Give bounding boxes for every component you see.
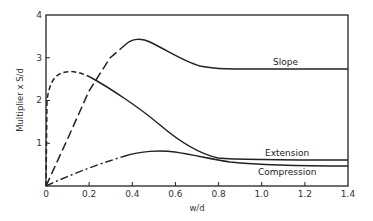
- extension-curve-dashed: [46, 72, 90, 186]
- x-tick-0.8: 0.8: [211, 189, 226, 199]
- x-tick-1.0: 1.0: [255, 189, 270, 199]
- extension-curve-solid: [90, 77, 348, 160]
- x-tick-0: 0: [43, 189, 49, 199]
- extension-label: Extension: [265, 148, 309, 158]
- x-tick-labels: 0 0.2 0.4 0.6 0.8 1.0 1.2 1.4: [43, 189, 355, 199]
- x-tick-0.6: 0.6: [168, 189, 183, 199]
- x-tick-0.4: 0.4: [125, 189, 140, 199]
- y-tick-4: 4: [36, 10, 42, 20]
- y-tick-3: 3: [36, 53, 42, 63]
- y-tick-1: 1: [36, 138, 42, 148]
- chart: 1 2 3 4 0 0.2 0.4 0.6 0.8 1.0 1.2 1.4 w/…: [0, 0, 373, 221]
- slope-curve-solid: [125, 39, 348, 69]
- y-tick-2: 2: [36, 95, 42, 105]
- y-tick-labels: 1 2 3 4: [36, 10, 42, 148]
- x-tick-1.2: 1.2: [298, 189, 312, 199]
- slope-label: Slope: [273, 57, 298, 67]
- y-axis-label: Multiplier x S/d: [15, 68, 25, 132]
- x-axis-label: w/d: [189, 203, 204, 213]
- compression-label: Compression: [258, 167, 316, 177]
- x-tick-1.4: 1.4: [341, 189, 356, 199]
- x-tick-0.2: 0.2: [82, 189, 96, 199]
- slope-curve-dashed: [46, 45, 125, 186]
